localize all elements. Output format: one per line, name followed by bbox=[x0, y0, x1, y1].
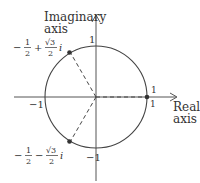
upper-frac2-den: 2 bbox=[48, 49, 53, 58]
upper-minus: − bbox=[13, 42, 21, 53]
upper-op: + bbox=[34, 42, 42, 53]
radius-240 bbox=[71, 97, 97, 141]
lower-i: i bbox=[60, 150, 63, 161]
lower-frac2-num: √3 bbox=[46, 146, 56, 155]
imaginary-axis-label-line2: axis bbox=[44, 22, 68, 36]
lower-op: − bbox=[35, 150, 43, 161]
point-upper bbox=[67, 50, 72, 55]
lower-frac1-num: 1 bbox=[26, 146, 31, 155]
tick-top: 1 bbox=[89, 34, 95, 45]
point-1 bbox=[145, 95, 150, 100]
point-lower bbox=[67, 139, 72, 144]
tick-left: −1 bbox=[29, 99, 44, 110]
label-upper-point: − 1 2 + √3 2 i bbox=[13, 38, 62, 58]
tick-right-upper: 1 bbox=[151, 85, 157, 95]
tick-bottom: −1 bbox=[86, 152, 101, 163]
lower-minus: − bbox=[14, 150, 22, 161]
upper-i: i bbox=[59, 42, 62, 53]
upper-frac1-den: 2 bbox=[25, 49, 30, 58]
lower-frac2-den: 2 bbox=[49, 157, 54, 166]
upper-frac2-num: √3 bbox=[45, 38, 55, 47]
label-lower-point: − 1 2 − √3 2 i bbox=[14, 146, 63, 166]
real-axis-label-line2: axis bbox=[173, 112, 197, 126]
upper-frac1-num: 1 bbox=[25, 38, 30, 47]
lower-frac1-den: 2 bbox=[26, 157, 31, 166]
radius-120 bbox=[71, 53, 97, 97]
tick-right-lower: 1 bbox=[150, 99, 156, 109]
complex-plane-diagram: Imaginary axis Real axis 1 −1 −1 1 1 − 1… bbox=[0, 0, 200, 183]
